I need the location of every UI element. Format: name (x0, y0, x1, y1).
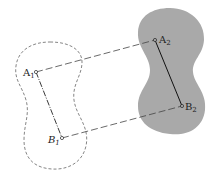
point-a1-marker (34, 70, 37, 73)
point-b2-marker (180, 104, 183, 107)
segment-a1-b1 (36, 72, 62, 138)
label-b1: B1 (47, 134, 60, 147)
translation-diagram: A1 B1 A2 B2 (0, 0, 217, 180)
body-final-position (138, 8, 205, 134)
point-b1-marker (60, 136, 63, 139)
label-a1: A1 (22, 67, 35, 80)
point-a2-marker (153, 38, 156, 41)
path-line-a (36, 40, 155, 72)
